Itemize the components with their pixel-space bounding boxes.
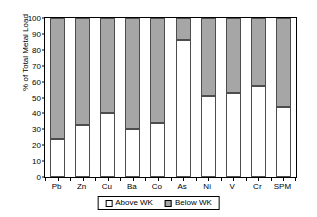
plot-area: 0102030405060708090100 — [44, 17, 297, 178]
bar-zn — [75, 18, 90, 177]
x-tick-mark — [208, 177, 209, 181]
bar-segment-above-wk — [226, 93, 241, 177]
x-tick-label-spm: SPM — [274, 182, 291, 191]
x-tick-mark — [58, 177, 59, 181]
x-tick-mark — [233, 177, 234, 181]
bar-segment-above-wk — [176, 40, 191, 177]
x-tick-mark — [183, 177, 184, 181]
x-tick-mark — [83, 177, 84, 181]
bar-co — [150, 18, 165, 177]
x-tick-label-cu: Cu — [102, 182, 112, 191]
y-tick-mark — [42, 18, 45, 19]
bar-segment-above-wk — [75, 125, 90, 177]
y-tick-mark — [42, 129, 45, 130]
x-tick-label-v: V — [230, 182, 235, 191]
x-tick-mark — [45, 177, 46, 181]
x-tick-mark — [171, 177, 172, 181]
x-tick-label-cr: Cr — [253, 182, 261, 191]
x-tick-label-ba: Ba — [127, 182, 137, 191]
x-tick-mark — [246, 177, 247, 181]
chart-figure: % of Total Metal Load 010203040506070809… — [0, 0, 317, 217]
x-tick-mark — [95, 177, 96, 181]
x-tick-mark — [120, 177, 121, 181]
legend-label-above-wk: Above WK — [115, 199, 153, 207]
bar-cu — [100, 18, 115, 177]
x-tick-label-zn: Zn — [77, 182, 86, 191]
bar-ba — [125, 18, 140, 177]
y-tick-mark — [42, 81, 45, 82]
gray-swatch-icon — [165, 200, 172, 207]
bar-segment-below-wk — [75, 18, 90, 125]
bar-pb — [50, 18, 65, 177]
x-tick-mark — [221, 177, 222, 181]
y-tick-mark — [42, 65, 45, 66]
bar-segment-below-wk — [100, 18, 115, 113]
bar-segment-below-wk — [176, 18, 191, 40]
x-tick-mark — [271, 177, 272, 181]
legend-label-below-wk: Below WK — [175, 199, 212, 207]
bar-segment-below-wk — [125, 18, 140, 129]
x-tick-mark — [70, 177, 71, 181]
white-swatch-icon — [105, 200, 112, 207]
y-tick-mark — [42, 97, 45, 98]
bar-segment-above-wk — [100, 113, 115, 177]
bar-segment-below-wk — [50, 18, 65, 139]
x-tick-mark — [295, 177, 296, 181]
bar-ni — [201, 18, 216, 177]
bar-spm — [276, 18, 291, 177]
bar-segment-below-wk — [150, 18, 165, 123]
bar-segment-above-wk — [201, 96, 216, 177]
bar-v — [226, 18, 241, 177]
bar-segment-below-wk — [276, 18, 291, 107]
x-tick-mark — [258, 177, 259, 181]
x-tick-label-co: Co — [152, 182, 162, 191]
x-tick-mark — [145, 177, 146, 181]
x-tick-label-ni: Ni — [203, 182, 211, 191]
bar-segment-below-wk — [251, 18, 266, 86]
x-tick-label-pb: Pb — [52, 182, 62, 191]
y-tick-mark — [42, 49, 45, 50]
bar-segment-below-wk — [201, 18, 216, 96]
y-tick-mark — [42, 33, 45, 34]
legend-item-below-wk: Below WK — [165, 199, 212, 207]
bar-segment-above-wk — [150, 123, 165, 177]
bar-cr — [251, 18, 266, 177]
x-tick-mark — [158, 177, 159, 181]
y-tick-mark — [42, 113, 45, 114]
bar-segment-above-wk — [125, 129, 140, 177]
bar-as — [176, 18, 191, 177]
y-tick-mark — [42, 161, 45, 162]
x-tick-mark — [133, 177, 134, 181]
bar-segment-below-wk — [226, 18, 241, 93]
legend-item-above-wk: Above WK — [105, 199, 153, 207]
x-tick-mark — [283, 177, 284, 181]
bar-segment-above-wk — [50, 139, 65, 177]
y-tick-mark — [42, 145, 45, 146]
bar-segment-above-wk — [251, 86, 266, 177]
bar-segment-above-wk — [276, 107, 291, 177]
plot-inner: 0102030405060708090100 — [45, 18, 296, 177]
x-tick-label-as: As — [177, 182, 186, 191]
x-tick-mark — [108, 177, 109, 181]
chart-legend: Above WK Below WK — [97, 196, 220, 210]
x-tick-mark — [196, 177, 197, 181]
